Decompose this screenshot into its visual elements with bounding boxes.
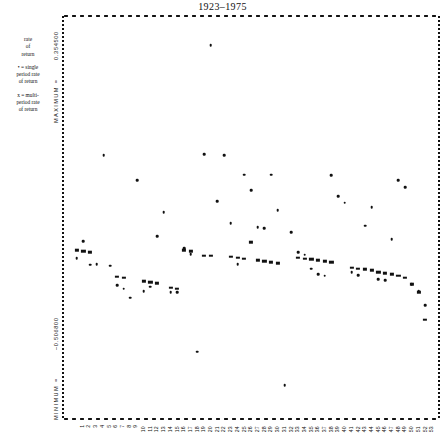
- x-axis-tick-label: 40: [341, 426, 347, 432]
- x-axis-tick-label: 38: [328, 426, 334, 432]
- data-point: [116, 284, 119, 287]
- x-axis-tick-label: 4: [98, 425, 104, 428]
- legend-heading: rate of return: [2, 36, 54, 58]
- data-point: [377, 278, 380, 281]
- data-point: [81, 250, 85, 253]
- data-point: [102, 154, 105, 157]
- data-point: [136, 179, 139, 182]
- x-axis-tick-label: 49: [402, 426, 408, 432]
- data-point: [256, 226, 259, 229]
- data-point: [216, 200, 219, 203]
- data-point: [115, 275, 119, 278]
- x-axis-tick-label: 16: [180, 426, 186, 432]
- legend: rate of return • = single period rate of…: [2, 36, 54, 120]
- x-axis-tick-label: 5: [105, 425, 111, 428]
- data-point: [310, 267, 313, 270]
- data-point: [235, 256, 239, 259]
- data-point: [230, 222, 233, 225]
- x-axis-tick-label: 23: [227, 426, 233, 432]
- x-axis-tick-label: 46: [381, 426, 387, 432]
- data-point: [189, 253, 192, 256]
- data-point: [182, 249, 186, 252]
- x-axis-tick-label: 17: [187, 426, 193, 432]
- data-point: [390, 273, 394, 276]
- data-point: [142, 290, 145, 293]
- data-point: [203, 153, 206, 156]
- data-point: [148, 281, 152, 284]
- x-axis-tick-label: 11: [147, 426, 153, 432]
- data-point: [349, 266, 353, 269]
- data-point: [383, 272, 387, 275]
- x-axis-tick-label: 6: [112, 425, 118, 428]
- data-point: [283, 384, 286, 387]
- data-point: [416, 291, 420, 294]
- data-point: [396, 275, 400, 278]
- x-axis-tick-label: 21: [214, 426, 220, 432]
- y-axis-max-value: 0.354500: [53, 31, 59, 60]
- legend-entry-line: of return: [2, 78, 54, 85]
- legend-heading-line: rate: [2, 36, 54, 43]
- x-axis-tick-label: 34: [301, 426, 307, 432]
- x-axis-tick-label: 13: [160, 426, 166, 432]
- data-point: [317, 273, 320, 276]
- data-point: [363, 268, 367, 271]
- x-axis-tick-label: 27: [254, 426, 260, 432]
- x-axis-tick-label: 14: [167, 426, 173, 432]
- x-axis-tick-label: 52: [422, 426, 428, 432]
- plot-border-left: [62, 15, 64, 420]
- legend-heading-line: return: [2, 51, 54, 58]
- data-point: [323, 260, 327, 263]
- x-axis-tick-label: 42: [355, 426, 361, 432]
- x-axis-tick-label: 37: [321, 426, 327, 432]
- scatter-plot-area: [62, 15, 440, 420]
- data-point: [404, 186, 407, 189]
- data-point: [189, 250, 193, 253]
- data-point: [176, 291, 179, 294]
- data-point: [424, 304, 427, 307]
- x-axis-tick-label: 18: [194, 426, 200, 432]
- x-axis-tick-label: 45: [375, 426, 381, 432]
- data-point: [364, 224, 367, 227]
- x-axis-tick-label: 53: [428, 426, 434, 432]
- data-point: [357, 274, 360, 277]
- x-axis-tick-label: 35: [308, 426, 314, 432]
- x-axis-tick-label: 8: [125, 425, 131, 428]
- data-point: [403, 276, 407, 279]
- page-title: 1923–1975: [0, 1, 445, 12]
- x-axis-tick-label: 30: [274, 426, 280, 432]
- data-point: [229, 255, 233, 258]
- x-axis-tick-label: 50: [408, 426, 414, 432]
- x-axis-tick-label: 2: [85, 425, 91, 428]
- data-point: [262, 260, 266, 263]
- data-point: [169, 291, 172, 294]
- data-point: [129, 296, 132, 299]
- data-point: [89, 264, 92, 267]
- data-point: [423, 318, 427, 321]
- plot-border-right: [438, 15, 440, 420]
- data-point: [397, 179, 400, 182]
- x-axis-tick-label: 24: [234, 426, 240, 432]
- data-point: [269, 261, 273, 264]
- data-point: [329, 261, 333, 264]
- data-point: [384, 279, 387, 282]
- data-point: [390, 238, 393, 241]
- data-point: [303, 257, 307, 260]
- data-point: [370, 206, 373, 209]
- data-point: [209, 44, 212, 47]
- x-axis-tick-label: 15: [174, 426, 180, 432]
- x-axis-tick-labels: 1234567891011121314151617181920212223242…: [62, 423, 440, 443]
- data-point: [330, 174, 333, 177]
- legend-entry-line: of return: [2, 106, 54, 113]
- x-axis-tick-label: 12: [154, 426, 160, 432]
- x-axis-tick-label: 25: [241, 426, 247, 432]
- x-axis-tick-label: 19: [200, 426, 206, 432]
- data-point: [75, 249, 79, 252]
- data-point: [122, 287, 125, 290]
- data-point: [142, 280, 146, 283]
- legend-entry-multi-period: x = multi- period rate of return: [2, 92, 54, 114]
- data-point: [122, 276, 126, 279]
- x-axis-tick-label: 41: [348, 426, 354, 432]
- data-point: [156, 235, 159, 238]
- data-point: [256, 259, 260, 262]
- x-axis-tick-label: 28: [261, 426, 267, 432]
